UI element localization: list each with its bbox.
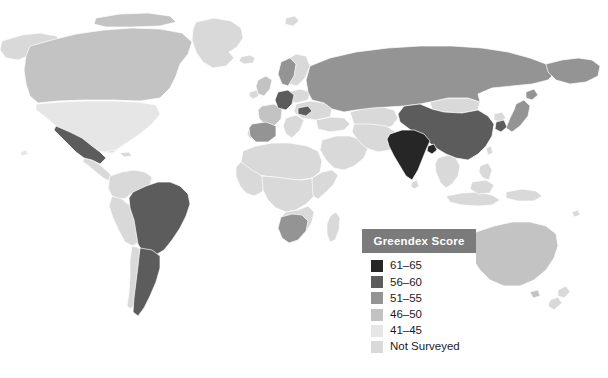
legend-item-56-60[interactable]: 56–60 — [371, 274, 476, 290]
region-spain — [249, 122, 276, 142]
legend-item-not-surveyed[interactable]: Not Surveyed — [371, 339, 476, 355]
legend-swatch-icon — [371, 260, 383, 272]
legend-item-label: 61–65 — [390, 260, 422, 272]
legend-swatch-icon — [371, 325, 383, 337]
legend-item-label: 46–50 — [390, 309, 422, 321]
legend-swatch-icon — [371, 309, 383, 321]
legend-item-label: 51–55 — [390, 293, 422, 305]
legend-title: Greendex Score — [362, 229, 476, 253]
map-legend: Greendex Score 61–65 56–60 51–55 46–50 4… — [362, 229, 476, 359]
legend-swatch-icon — [371, 341, 383, 353]
legend-items: 61–65 56–60 51–55 46–50 41–45 Not Survey — [362, 253, 476, 359]
legend-item-41-45[interactable]: 41–45 — [371, 323, 476, 339]
legend-item-label: 56–60 — [390, 277, 422, 289]
legend-item-61-65[interactable]: 61–65 — [371, 258, 476, 274]
legend-item-label: Not Surveyed — [390, 341, 460, 353]
world-map-figure: Greendex Score 61–65 56–60 51–55 46–50 4… — [0, 0, 608, 378]
legend-swatch-icon — [371, 292, 383, 304]
legend-item-51-55[interactable]: 51–55 — [371, 290, 476, 306]
world-map — [0, 0, 608, 378]
legend-swatch-icon — [371, 276, 383, 288]
legend-item-46-50[interactable]: 46–50 — [371, 307, 476, 323]
legend-item-label: 41–45 — [390, 325, 422, 337]
